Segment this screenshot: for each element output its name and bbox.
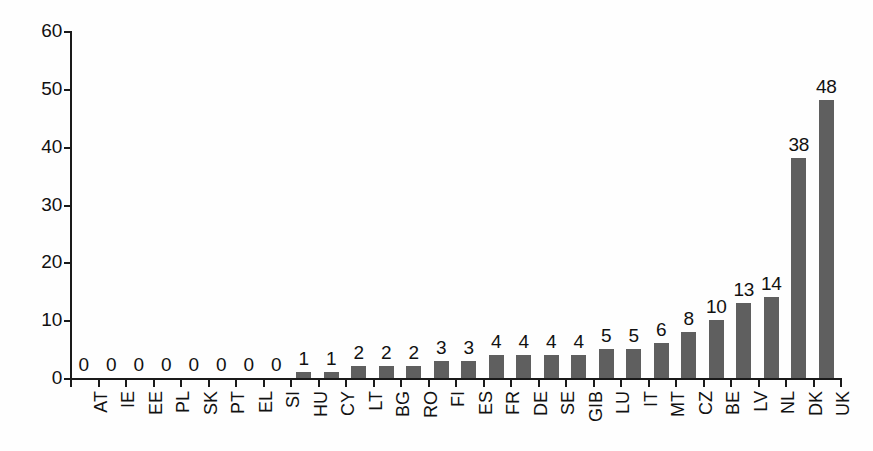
x-axis-category-label: CZ [696, 391, 717, 415]
x-axis-category-label: UK [833, 391, 854, 416]
x-axis-category-label: LU [613, 391, 634, 414]
bar-rect[interactable] [406, 366, 421, 378]
x-axis-category-label: GIB [586, 391, 607, 422]
bar-value-label: 4 [574, 331, 584, 353]
x-axis-category-label: IT [641, 391, 662, 407]
bar-value-label: 38 [788, 134, 809, 156]
bar[interactable]: 4 [544, 355, 559, 378]
bar[interactable]: 2 [351, 366, 366, 378]
bar-rect[interactable] [544, 355, 559, 378]
bar[interactable]: 2 [379, 366, 394, 378]
y-axis-tick-mark [64, 262, 70, 264]
bar-rect[interactable] [709, 320, 724, 378]
bar-rect[interactable] [791, 158, 806, 378]
bar[interactable]: 1 [324, 372, 339, 378]
y-axis-tick-label: 50 [41, 78, 62, 100]
bar-rect[interactable] [819, 100, 834, 378]
bar-rect[interactable] [351, 366, 366, 378]
x-axis-category-label: EL [256, 391, 277, 413]
bar-value-label: 4 [519, 331, 529, 353]
bar-value-label: 14 [761, 273, 782, 295]
bar[interactable]: 5 [626, 349, 641, 378]
bar-rect[interactable] [516, 355, 531, 378]
x-axis-tick-mark [455, 380, 457, 387]
x-axis-category-label: FI [448, 391, 469, 407]
x-axis-tick-mark [70, 380, 72, 387]
x-axis-category-label: IE [118, 391, 139, 408]
bar-rect[interactable] [736, 303, 751, 378]
bar[interactable]: 14 [764, 297, 779, 378]
x-axis-tick-mark [703, 380, 705, 387]
bar[interactable]: 10 [709, 320, 724, 378]
bar-rect[interactable] [296, 372, 311, 378]
bar[interactable]: 48 [819, 100, 834, 378]
x-axis-tick-mark [565, 380, 567, 387]
x-axis-tick-mark [318, 380, 320, 387]
bar-value-label: 13 [733, 279, 754, 301]
bar-value-label: 1 [299, 348, 309, 370]
bar-rect[interactable] [681, 332, 696, 378]
bar-rect[interactable] [764, 297, 779, 378]
y-axis-tick-label: 0 [52, 367, 62, 389]
x-axis-category-label: BE [723, 391, 744, 415]
bar-value-label: 0 [134, 354, 144, 376]
bar[interactable]: 5 [599, 349, 614, 378]
x-axis-category-label: RO [421, 391, 442, 418]
bar[interactable]: 1 [296, 372, 311, 378]
x-axis-tick-mark [373, 380, 375, 387]
bar-value-label: 1 [326, 348, 336, 370]
x-axis-tick-mark [235, 380, 237, 387]
bar[interactable]: 13 [736, 303, 751, 378]
bar[interactable]: 6 [654, 343, 669, 378]
x-axis-tick-mark [510, 380, 512, 387]
bar-rect[interactable] [461, 361, 476, 378]
x-axis-tick-mark [538, 380, 540, 387]
bar[interactable]: 4 [489, 355, 504, 378]
x-axis-category-label: SK [201, 391, 222, 415]
bar[interactable]: 3 [434, 361, 449, 378]
x-axis-category-label: DE [531, 391, 552, 416]
y-axis-tick-mark [64, 320, 70, 322]
bar-rect[interactable] [599, 349, 614, 378]
bar-value-label: 0 [189, 354, 199, 376]
bar-rect[interactable] [654, 343, 669, 378]
x-axis-category-label: LV [751, 391, 772, 412]
bar-rect[interactable] [626, 349, 641, 378]
bar-rect[interactable] [489, 355, 504, 378]
bar-value-label: 0 [216, 354, 226, 376]
y-axis-tick-label: 40 [41, 136, 62, 158]
bar-rect[interactable] [434, 361, 449, 378]
bar[interactable]: 2 [406, 366, 421, 378]
bar-rect[interactable] [571, 355, 586, 378]
bar[interactable]: 3 [461, 361, 476, 378]
x-axis-category-label: BG [393, 391, 414, 417]
x-axis-tick-mark [593, 380, 595, 387]
bar-rect[interactable] [379, 366, 394, 378]
bar-value-label: 0 [79, 354, 89, 376]
bar[interactable]: 4 [516, 355, 531, 378]
bar[interactable]: 4 [571, 355, 586, 378]
y-axis-tick-mark [64, 205, 70, 207]
bar-value-label: 10 [706, 296, 727, 318]
y-axis-tick-label: 30 [41, 194, 62, 216]
bar-rect[interactable] [324, 372, 339, 378]
bar-value-label: 2 [409, 342, 419, 364]
y-axis-tick-mark [64, 147, 70, 149]
x-axis-category-label: EE [146, 391, 167, 415]
bar-value-label: 5 [629, 325, 639, 347]
x-axis-tick-mark [620, 380, 622, 387]
bar[interactable]: 38 [791, 158, 806, 378]
x-axis-category-label: PL [173, 391, 194, 413]
x-axis-tick-mark [98, 380, 100, 387]
x-axis-tick-mark [785, 380, 787, 387]
x-axis-category-label: AT [91, 391, 112, 413]
bar[interactable]: 8 [681, 332, 696, 378]
y-axis-tick-label: 20 [41, 251, 62, 273]
x-axis-tick-mark [345, 380, 347, 387]
x-axis-category-label: SI [283, 391, 304, 408]
x-axis-category-label: CY [338, 391, 359, 416]
bar-value-label: 3 [464, 337, 474, 359]
bar-value-label: 0 [161, 354, 171, 376]
bar-chart: 000000001122233444455681013143848 010203… [0, 0, 873, 451]
x-axis-category-label: NL [778, 391, 799, 414]
